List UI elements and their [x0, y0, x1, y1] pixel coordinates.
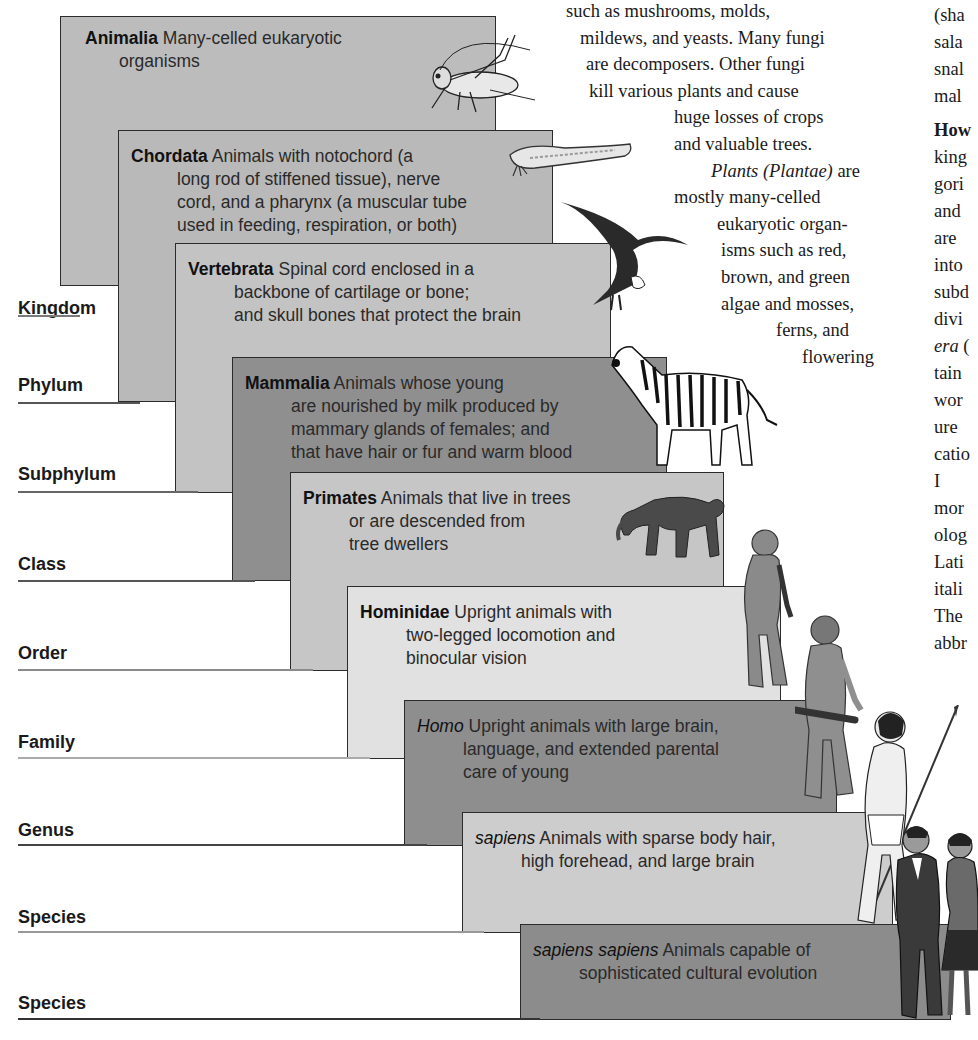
rank-underline — [18, 931, 484, 933]
body-text-line: divi — [934, 306, 963, 333]
body-text-line: mal — [934, 83, 962, 110]
taxon-description-line: Animals whose young — [334, 373, 504, 393]
rank-label: Order — [18, 643, 67, 664]
cricket-icon — [420, 30, 540, 120]
body-text-line: flowering — [802, 344, 874, 371]
taxon-description-line: two-legged locomotion and — [406, 625, 615, 645]
rank-label: Family — [18, 732, 75, 753]
body-text-line: kill various plants and cause — [589, 78, 799, 105]
taxon-description-line: care of young — [463, 762, 569, 782]
body-text-line: king — [934, 144, 967, 171]
body-text-line: catio — [934, 441, 970, 468]
body-text-line: Plants (Plantae) are — [711, 158, 860, 185]
taxon-description: Animalia Many-celled eukaryoticorganisms — [85, 27, 342, 73]
rank-label: Phylum — [18, 375, 83, 396]
taxon-description-line: or are descended from — [349, 511, 525, 531]
taxon-description: Primates Animals that live in treesor ar… — [303, 487, 571, 556]
taxon-description: Homo Upright animals with large brain,la… — [417, 715, 719, 784]
rank-label: Class — [18, 554, 66, 575]
taxon-description: Mammalia Animals whose youngare nourishe… — [245, 372, 572, 464]
body-text-line: era ( — [934, 333, 969, 360]
taxon-box: sapiens sapiens Animals capable ofsophis… — [520, 924, 951, 1020]
taxon-description: sapiens sapiens Animals capable ofsophis… — [533, 939, 817, 985]
body-text-line: Lati — [934, 549, 964, 576]
body-text-line: ferns, and — [776, 317, 849, 344]
taxon-description-line: backbone of cartilage or bone; — [234, 282, 469, 302]
taxon-description-line: Animals that live in trees — [381, 488, 571, 508]
rank-label: Species — [18, 907, 86, 928]
taxon-description-line: that have hair or fur and warm blood — [291, 442, 572, 462]
taxon-description-line: binocular vision — [406, 648, 527, 668]
modern-man-and-woman-icon — [892, 820, 978, 1025]
rank-label: Subphylum — [18, 464, 116, 485]
body-text-line: abbr — [934, 630, 967, 657]
taxon-description: Chordata Animals with notochord (along r… — [131, 145, 467, 237]
body-text-line: The — [934, 603, 963, 630]
body-text-line: (sha — [934, 2, 965, 29]
body-text-line: subd — [934, 279, 969, 306]
taxon-description-line: are nourished by milk produced by — [291, 396, 559, 416]
rank-underline — [18, 669, 313, 671]
body-text-line: ure — [934, 414, 958, 441]
taxon-description: Vertebrata Spinal cord enclosed in aback… — [188, 258, 521, 327]
taxon-name: Homo — [417, 716, 464, 736]
body-text-line: isms such as red, — [721, 237, 846, 264]
taxon-description-line: Animals with notochord (a — [212, 146, 413, 166]
body-text-line: huge losses of crops — [674, 104, 824, 131]
taxon-description-line: Upright animals with — [454, 602, 612, 622]
body-text-line: mildews, and yeasts. Many fungi — [580, 25, 825, 52]
taxon-description-line: high forehead, and large brain — [521, 851, 755, 871]
body-text-line: sala — [934, 29, 963, 56]
monkey-icon — [614, 485, 744, 565]
body-text-line: mostly many-celled — [674, 184, 820, 211]
eagle-icon — [553, 195, 693, 315]
body-text-line: and — [934, 198, 961, 225]
taxon-box: sapiens Animals with sparse body hair,hi… — [462, 812, 893, 933]
body-text-line: gori — [934, 171, 964, 198]
body-text-line: and valuable trees. — [674, 131, 812, 158]
rank-underline — [18, 491, 198, 493]
body-text-line: are decomposers. Other fungi — [586, 51, 805, 78]
body-text-line: into — [934, 252, 963, 279]
taxon-description-line: long rod of stiffened tissue), nerve — [177, 169, 440, 189]
body-text-line: mor — [934, 495, 964, 522]
lancelet-icon — [505, 140, 635, 180]
body-text-line: brown, and green — [721, 264, 850, 291]
rank-label: Species — [18, 993, 86, 1014]
taxon-description-line: Animals capable of — [662, 940, 810, 960]
taxon-name: sapiens sapiens — [533, 940, 659, 960]
taxon-description: Hominidae Upright animals withtwo-legged… — [360, 601, 615, 670]
rank-underline — [18, 1018, 540, 1020]
body-text-line: tain — [934, 360, 962, 387]
taxon-name: Vertebrata — [188, 259, 274, 279]
taxon-description-line: Animals with sparse body hair, — [539, 828, 775, 848]
taxon-description-line: mammary glands of females; and — [291, 419, 550, 439]
taxon-name: Mammalia — [245, 373, 330, 393]
taxon-name: Animalia — [85, 28, 158, 48]
taxon-description-line: and skull bones that protect the brain — [234, 305, 521, 325]
taxon-name: Hominidae — [360, 602, 449, 622]
taxon-description-line: tree dwellers — [349, 534, 448, 554]
body-text-line: olog — [934, 522, 967, 549]
body-text-line: eukaryotic organ- — [717, 211, 848, 238]
taxon-description-line: Many-celled eukaryotic — [163, 28, 342, 48]
body-text-line: snal — [934, 56, 964, 83]
body-text-line: wor — [934, 387, 963, 414]
early-hominid-icon — [735, 525, 795, 695]
body-text-line: How — [934, 117, 971, 144]
rank-underline — [18, 580, 255, 582]
body-text-line: are — [934, 225, 957, 252]
taxon-name: Primates — [303, 488, 377, 508]
rank-underline — [18, 402, 140, 404]
rank-underline — [18, 844, 427, 846]
body-text-line: algae and mosses, — [721, 291, 854, 318]
taxon-description-line: Upright animals with large brain, — [469, 716, 719, 736]
body-text-line: such as mushrooms, molds, — [566, 0, 770, 25]
taxon-description-line: cord, and a pharynx (a muscular tube — [177, 192, 467, 212]
rank-label: Genus — [18, 820, 74, 841]
taxon-description-line: Spinal cord enclosed in a — [278, 259, 474, 279]
taxon-description: sapiens Animals with sparse body hair,hi… — [475, 827, 776, 873]
taxon-name: Chordata — [131, 146, 208, 166]
taxon-description-line: used in feeding, respiration, or both) — [177, 215, 457, 235]
rank-underline — [18, 315, 80, 317]
